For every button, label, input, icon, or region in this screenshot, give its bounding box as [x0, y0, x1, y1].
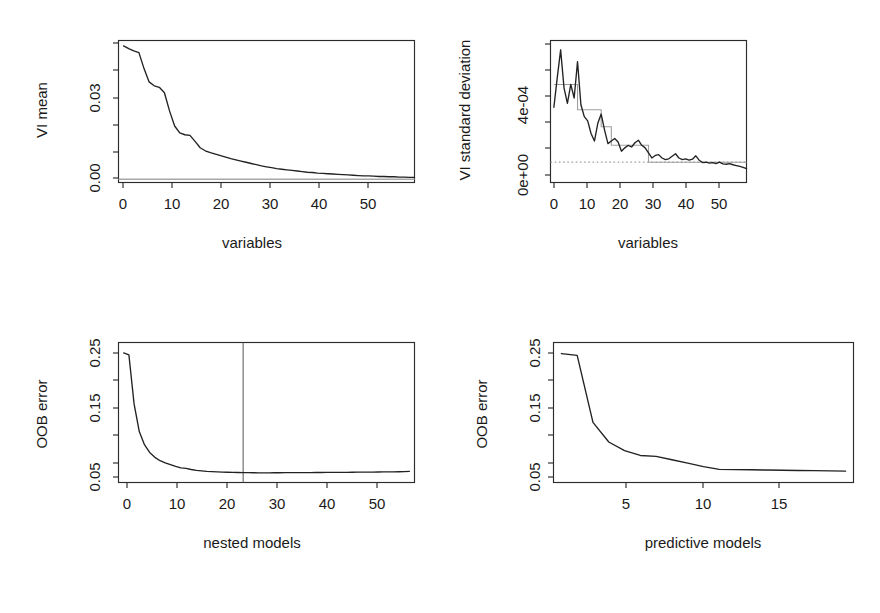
ytick-label-1: 0.03 [86, 83, 103, 112]
figure-canvas: VI mean 0.03 0.00 [0, 0, 880, 613]
data-layer [551, 50, 747, 169]
oob-predictive-curve [561, 354, 845, 472]
xtick-label-5: 50 [369, 495, 386, 512]
ytick-label-0: 0.05 [526, 462, 543, 491]
cart-step-fit [554, 84, 747, 162]
ytick-label-0: 0e+00 [514, 154, 531, 196]
axis-title-y: VI mean [33, 82, 50, 138]
panel-oob-nested-svg: OOB error 0.25 0.15 0.05 0 [0, 280, 440, 613]
plot-frame [119, 41, 415, 183]
xtick-label-0: 0 [550, 195, 558, 212]
xtick-label-3: 30 [269, 495, 286, 512]
panel-vi-sd: VI standard deviation 4e-04 0e+00 0 [440, 0, 880, 280]
panel-vi-mean: VI mean 0.03 0.00 [0, 0, 440, 280]
ytick-marks [113, 43, 119, 178]
axis-title-x: predictive models [645, 534, 762, 551]
xtick-label-0: 0 [123, 495, 131, 512]
xtick-marks [127, 483, 377, 489]
data-layer [119, 46, 415, 179]
xtick-label-2: 20 [219, 495, 236, 512]
ytick-label-2: 0.25 [526, 338, 543, 367]
ytick-label-1: 4e-04 [514, 86, 531, 124]
xtick-label-0: 0 [119, 195, 127, 212]
xtick-label-5: 50 [360, 195, 377, 212]
oob-nested-curve [124, 353, 410, 473]
panel-oob-nested: OOB error 0.25 0.15 0.05 0 [0, 280, 440, 613]
xtick-label-1: 10 [695, 495, 712, 512]
xtick-label-4: 40 [311, 195, 328, 212]
xtick-label-1: 10 [169, 495, 186, 512]
xtick-label-0: 5 [622, 495, 630, 512]
panel-vi-sd-svg: VI standard deviation 4e-04 0e+00 0 [440, 0, 880, 280]
xtick-label-2: 20 [213, 195, 230, 212]
ytick-label-1: 0.15 [526, 393, 543, 422]
ytick-marks [548, 353, 554, 477]
ytick-marks [545, 44, 551, 175]
data-layer [124, 343, 410, 483]
vi-mean-curve [124, 46, 415, 177]
axis-title-y: OOB error [473, 379, 490, 448]
axis-title-y: VI standard deviation [456, 40, 473, 181]
panel-vi-mean-svg: VI mean 0.03 0.00 [0, 0, 440, 280]
axis-title-y: OOB error [33, 379, 50, 448]
xtick-label-2: 20 [612, 195, 629, 212]
xtick-marks [554, 183, 719, 189]
xtick-label-5: 50 [711, 195, 728, 212]
data-layer [561, 354, 845, 472]
xtick-marks [123, 183, 368, 189]
panel-oob-predictive-svg: OOB error 0.25 0.15 0.05 5 10 15 [440, 280, 880, 613]
ytick-label-0: 0.00 [86, 163, 103, 192]
axis-title-x: variables [618, 234, 678, 251]
ytick-label-1: 0.15 [86, 393, 103, 422]
ytick-marks [113, 353, 119, 477]
xtick-label-4: 40 [678, 195, 695, 212]
xtick-label-3: 30 [262, 195, 279, 212]
xtick-label-2: 15 [771, 495, 788, 512]
vi-sd-curve [554, 50, 747, 169]
panel-oob-predictive: OOB error 0.25 0.15 0.05 5 10 15 [440, 280, 880, 613]
xtick-label-4: 40 [319, 495, 336, 512]
axis-title-x: nested models [203, 534, 301, 551]
xtick-label-1: 10 [579, 195, 596, 212]
ytick-label-2: 0.25 [86, 338, 103, 367]
xtick-label-1: 10 [164, 195, 181, 212]
ytick-label-0: 0.05 [86, 462, 103, 491]
xtick-marks [626, 483, 779, 489]
axis-title-x: variables [222, 234, 282, 251]
plot-frame [554, 343, 854, 483]
xtick-label-3: 30 [645, 195, 662, 212]
